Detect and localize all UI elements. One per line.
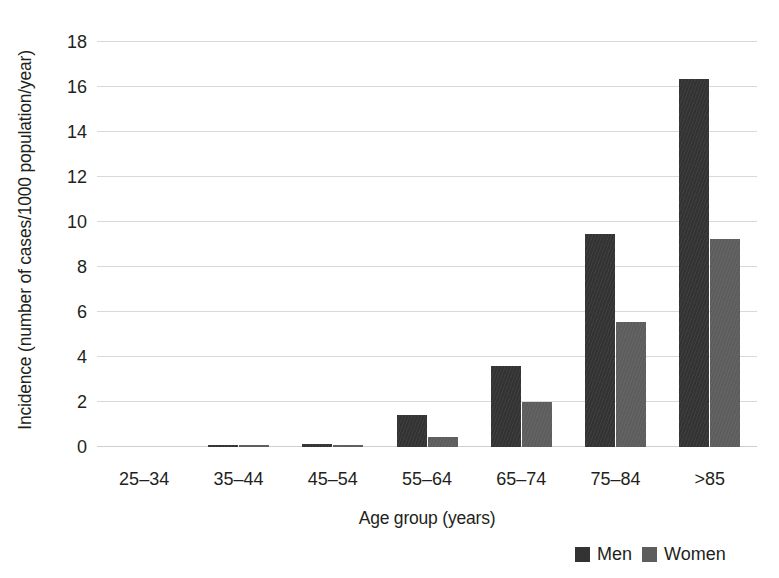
bar-men: [208, 445, 238, 447]
chart-legend: Men Women: [575, 545, 726, 563]
y-axis-tick-label: 12: [45, 168, 87, 186]
x-axis-tick-label: 25–34: [97, 469, 191, 489]
bar-group: [491, 42, 552, 447]
x-axis-tick-label: >85: [663, 469, 757, 489]
bar-men: [397, 415, 427, 447]
x-axis-tick-label: 75–84: [568, 469, 662, 489]
bar-groups: [97, 42, 757, 447]
bar-women: [616, 322, 646, 447]
chart-figure: Incidence (number of cases/1000 populati…: [0, 0, 779, 578]
bar-men: [491, 366, 521, 447]
bar-group: [302, 42, 363, 447]
bar-group: [679, 42, 740, 447]
legend-label-men: Men: [597, 545, 632, 563]
bar-men: [679, 79, 709, 447]
legend-swatch-women-icon: [642, 547, 657, 562]
x-axis-tick-label: 35–44: [191, 469, 285, 489]
y-axis-tick-label: 14: [45, 123, 87, 141]
y-axis-tick-label: 18: [45, 33, 87, 51]
plot-area: [97, 42, 757, 447]
bar-women: [333, 445, 363, 447]
bar-women: [522, 402, 552, 447]
bar-men: [585, 234, 615, 447]
y-axis-tick-label: 0: [45, 438, 87, 456]
bar-women: [710, 239, 740, 447]
legend-label-women: Women: [664, 545, 726, 563]
y-axis-tick-label: 6: [45, 303, 87, 321]
legend-item-women: Women: [642, 545, 726, 563]
y-axis-tick-label: 16: [45, 78, 87, 96]
y-axis-tick-label: 10: [45, 213, 87, 231]
y-axis-tick-label: 4: [45, 348, 87, 366]
bar-women: [239, 445, 269, 447]
x-axis-title: Age group (years): [97, 508, 757, 529]
x-axis-tick-label: 55–64: [380, 469, 474, 489]
bar-men: [302, 444, 332, 447]
bar-women: [428, 437, 458, 447]
bar-group: [208, 42, 269, 447]
y-axis-tick-label: 8: [45, 258, 87, 276]
x-axis-tick-label: 45–54: [286, 469, 380, 489]
y-axis-title: Incidence (number of cases/1000 populati…: [8, 10, 42, 470]
y-axis-tick-label: 2: [45, 393, 87, 411]
bar-group: [585, 42, 646, 447]
legend-item-men: Men: [575, 545, 632, 563]
bar-group: [114, 42, 175, 447]
x-axis-tick-label: 65–74: [474, 469, 568, 489]
bar-group: [397, 42, 458, 447]
legend-swatch-men-icon: [575, 547, 590, 562]
